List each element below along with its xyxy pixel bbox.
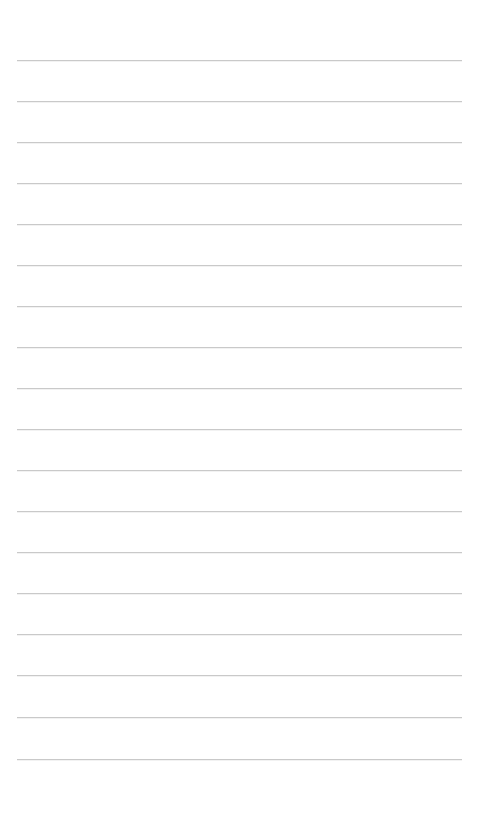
ruled-line bbox=[17, 675, 462, 676]
ruled-line bbox=[17, 347, 462, 348]
ruled-line bbox=[17, 717, 462, 718]
ruled-line bbox=[17, 101, 462, 102]
ruled-line bbox=[17, 183, 462, 184]
ruled-line bbox=[17, 759, 462, 760]
lined-paper-page bbox=[0, 0, 490, 818]
ruled-line bbox=[17, 470, 462, 471]
ruled-line bbox=[17, 142, 462, 143]
ruled-line bbox=[17, 60, 462, 61]
ruled-line bbox=[17, 552, 462, 553]
ruled-line bbox=[17, 224, 462, 225]
ruled-line bbox=[17, 306, 462, 307]
ruled-line bbox=[17, 388, 462, 389]
ruled-line bbox=[17, 634, 462, 635]
ruled-line bbox=[17, 593, 462, 594]
ruled-line bbox=[17, 511, 462, 512]
ruled-line bbox=[17, 429, 462, 430]
ruled-line bbox=[17, 265, 462, 266]
